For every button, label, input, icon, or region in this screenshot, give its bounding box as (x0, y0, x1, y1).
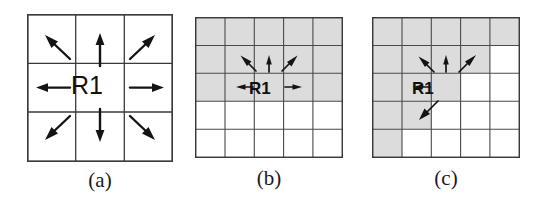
panel-a-caption: (a) (27, 168, 173, 193)
panel-c-region-label: R1 (412, 80, 434, 97)
panel-b-caption: (b) (195, 166, 343, 191)
panel-c-grid (372, 17, 520, 158)
panel-a-region-label: R1 (71, 73, 103, 98)
panel-b-region-label: R1 (249, 80, 271, 97)
figure-root: R1 (a) (0, 0, 540, 210)
panel-c-grid-svg (372, 17, 520, 158)
panel-c-caption: (c) (372, 166, 520, 191)
